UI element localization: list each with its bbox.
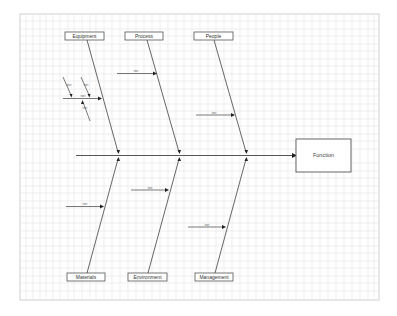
- category-equipment-label: Equipment: [73, 33, 98, 39]
- effect-box[interactable]: Function: [296, 139, 351, 172]
- fishbone-diagram: Function Equipment Process People Materi…: [0, 0, 397, 316]
- category-people[interactable]: People: [194, 32, 233, 40]
- effect-label: Function: [313, 152, 334, 158]
- category-management-label: Management: [199, 274, 229, 280]
- category-process-label: Process: [135, 33, 154, 39]
- cause-equipment-sub-1-label: text: [67, 83, 72, 87]
- category-materials[interactable]: Materials: [67, 273, 105, 281]
- category-equipment[interactable]: Equipment: [65, 32, 104, 40]
- cause-process-label: text: [134, 69, 139, 73]
- category-people-label: People: [206, 33, 222, 39]
- category-environment[interactable]: Environment: [128, 273, 167, 281]
- category-materials-label: Materials: [76, 274, 97, 280]
- cause-equipment-label: text: [81, 94, 86, 98]
- cause-equipment-sub-2-label: text: [84, 83, 89, 87]
- cause-equipment-sub-3-label: text: [83, 106, 88, 110]
- cause-materials-label: text: [83, 202, 88, 206]
- category-process[interactable]: Process: [125, 32, 163, 40]
- cause-people-label: text: [212, 111, 217, 115]
- cause-management-label: text: [205, 223, 210, 227]
- cause-environment-label: text: [148, 186, 153, 190]
- category-environment-label: Environment: [133, 274, 162, 280]
- category-management[interactable]: Management: [195, 273, 233, 281]
